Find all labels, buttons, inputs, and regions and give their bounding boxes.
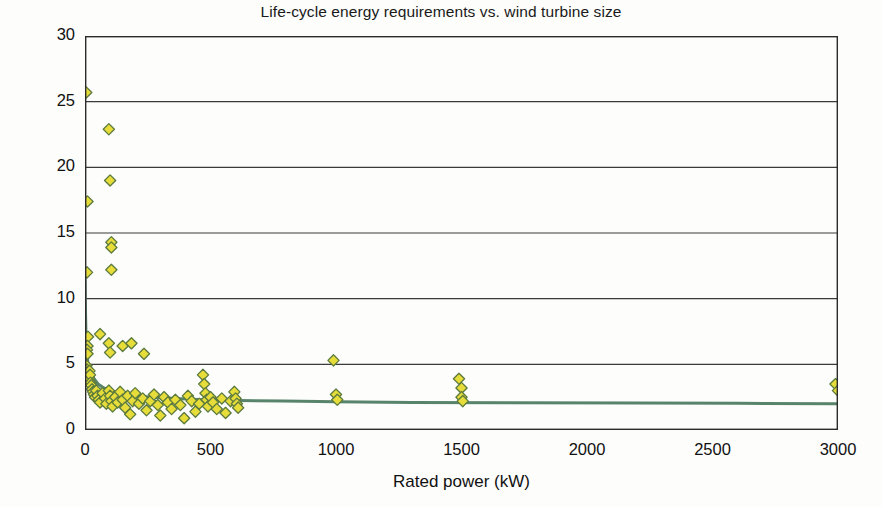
data-points bbox=[85, 87, 838, 424]
x-tick-label: 2000 bbox=[547, 440, 627, 459]
chart-title: Life-cycle energy requirements vs. wind … bbox=[0, 3, 882, 21]
y-tick-label: 0 bbox=[15, 419, 75, 438]
x-tick-label: 1500 bbox=[422, 440, 502, 459]
x-tick-label: 3000 bbox=[798, 440, 878, 459]
y-tick-label: 15 bbox=[15, 222, 75, 241]
x-tick-label: 2500 bbox=[673, 440, 753, 459]
plot-area bbox=[85, 36, 838, 430]
y-tick-label: 30 bbox=[15, 25, 75, 44]
x-tick-label: 1000 bbox=[296, 440, 376, 459]
figure: Life-cycle energy requirements vs. wind … bbox=[0, 0, 882, 507]
y-tick-label: 25 bbox=[15, 91, 75, 110]
x-tick-label: 0 bbox=[45, 440, 125, 459]
y-tick-label: 5 bbox=[15, 353, 75, 372]
x-tick-label: 500 bbox=[171, 440, 251, 459]
y-tick-label: 10 bbox=[15, 288, 75, 307]
x-axis-label: Rated power (kW) bbox=[85, 472, 838, 492]
plot-canvas bbox=[85, 36, 838, 430]
y-tick-label: 20 bbox=[15, 156, 75, 175]
gridlines bbox=[85, 102, 838, 365]
